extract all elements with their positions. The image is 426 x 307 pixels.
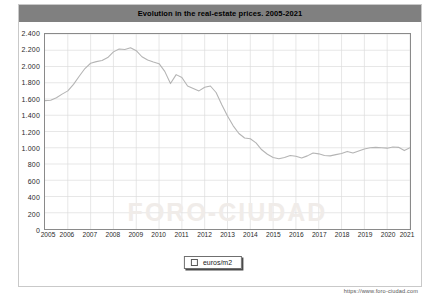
y-tick-label: 400	[28, 194, 40, 201]
y-tick-label: 1.000	[21, 144, 40, 151]
y-tick-label: 800	[28, 161, 40, 168]
x-tick-label: 2015	[266, 231, 281, 238]
page-title: Evolution in the real-estate prices. 200…	[138, 9, 303, 18]
x-tick-label: 2019	[358, 231, 373, 238]
plot-area	[44, 33, 411, 230]
x-axis-labels: 2005200620072008200920102011201220132014…	[44, 231, 411, 245]
y-axis-labels: 02004006008001.0001.2001.4001.6001.8002.…	[0, 33, 42, 230]
line-chart-svg	[45, 34, 410, 229]
y-tick-label: 2.200	[21, 46, 40, 53]
x-tick-label: 2011	[175, 231, 189, 238]
y-tick-label: 1.200	[21, 128, 40, 135]
x-tick-label: 2012	[197, 231, 212, 238]
x-tick-label: 2018	[335, 231, 350, 238]
x-tick-label: 2014	[243, 231, 258, 238]
x-tick-label: 2020	[381, 231, 396, 238]
x-tick-label: 2005	[41, 231, 56, 238]
x-tick-label: 2013	[220, 231, 235, 238]
source-url: https://www.foro-ciudad.com	[344, 288, 418, 294]
y-tick-label: 1.400	[21, 112, 40, 119]
y-tick-label: 200	[28, 210, 40, 217]
y-tick-label: 1.600	[21, 95, 40, 102]
chart-screenshot: Evolution in the real-estate prices. 200…	[0, 0, 426, 307]
x-tick-label: 2006	[60, 231, 75, 238]
legend-swatch-icon	[191, 259, 198, 266]
chart-legend[interactable]: euros/m2	[184, 256, 242, 269]
x-tick-label: 2017	[312, 231, 327, 238]
x-tick-label: 2021	[400, 231, 415, 238]
y-tick-label: 1.800	[21, 79, 40, 86]
x-tick-label: 2010	[151, 231, 166, 238]
x-tick-label: 2008	[105, 231, 120, 238]
y-tick-label: 2.400	[21, 30, 40, 37]
x-tick-label: 2007	[83, 231, 98, 238]
chart-title-bar: Evolution in the real-estate prices. 200…	[19, 5, 421, 22]
y-tick-label: 600	[28, 177, 40, 184]
gridlines	[45, 34, 410, 229]
y-tick-label: 2.000	[21, 62, 40, 69]
x-tick-label: 2009	[128, 231, 143, 238]
x-tick-label: 2016	[289, 231, 304, 238]
legend-label: euros/m2	[203, 259, 232, 266]
y-tick-label: 0	[36, 227, 40, 234]
